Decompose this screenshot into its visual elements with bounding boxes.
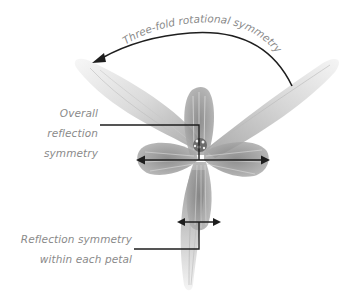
label-line: Overall [20, 103, 98, 123]
petal-reflection-label: Reflection symmetry within each petal [10, 229, 132, 269]
arrowhead-left-icon [177, 218, 185, 226]
label-line: Reflection symmetry [10, 229, 132, 249]
overall-reflection-label: Overall reflection symmetry [20, 103, 98, 163]
symmetry-diagram: Three-fold rotational symmetry Overall r… [0, 0, 357, 301]
label-line: symmetry [20, 143, 98, 163]
rotation-arrowhead-icon [92, 53, 106, 63]
arrowhead-right-icon [213, 218, 221, 226]
flower-center [193, 138, 207, 152]
label-line: within each petal [10, 249, 132, 269]
inner-petal-bottom [187, 162, 212, 230]
label-line: reflection [20, 123, 98, 143]
outer-petal-upper-right [205, 59, 339, 158]
